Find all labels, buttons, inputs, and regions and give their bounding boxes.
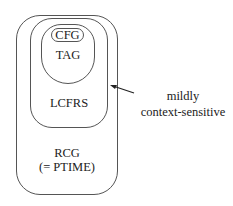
annotation-line1: mildly [139,88,227,104]
annotation-line2: context-sensitive [136,104,230,120]
